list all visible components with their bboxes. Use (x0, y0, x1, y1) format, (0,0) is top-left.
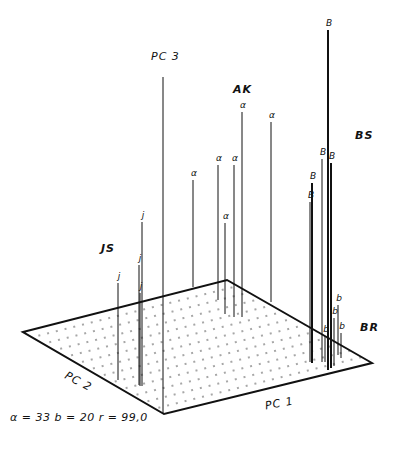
pc3-axis-label: PC 3 (151, 51, 180, 62)
group-label-bs: BS (355, 130, 373, 141)
point-marker-label: B (310, 172, 316, 181)
pc1-pc2-plane (23, 280, 372, 414)
point-marker-label: α (232, 154, 238, 163)
point-marker-label: B (326, 19, 332, 28)
group-label-ak: AK (233, 84, 252, 95)
point-marker-label: b (332, 307, 338, 316)
point-marker-label: B (329, 152, 335, 161)
point-marker-label: B (320, 148, 326, 157)
point-marker-label: b (336, 294, 342, 303)
point-marker-label: α (223, 212, 229, 221)
point-marker-label: b (323, 325, 329, 334)
parameters-footnote: α = 33 b = 20 r = 99,0 (10, 412, 148, 423)
point-marker-label: b (339, 322, 345, 331)
point-marker-label: j (118, 272, 121, 281)
point-marker-label: j (139, 254, 142, 263)
pca-3d-plot (0, 0, 394, 455)
group-label-br: BR (360, 322, 379, 333)
point-marker-label: α (240, 101, 246, 110)
point-marker-label: α (216, 154, 222, 163)
point-marker-label: j (140, 282, 143, 291)
point-marker-label: j (142, 211, 145, 220)
point-marker-label: B (308, 191, 314, 200)
point-marker-label: α (269, 111, 275, 120)
plane-outline (23, 280, 372, 414)
group-label-js: JS (101, 243, 115, 254)
point-marker-label: α (191, 169, 197, 178)
